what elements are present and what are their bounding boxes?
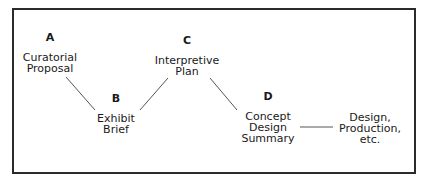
edge-b-c	[140, 78, 168, 110]
node-c-label: Interpretive Plan	[155, 55, 220, 77]
connector-lines	[0, 0, 424, 185]
node-a-letter: A	[46, 31, 55, 44]
edge-a-b	[66, 77, 95, 110]
node-design-production-label: Design, Production, etc.	[339, 112, 401, 145]
node-d-label: Concept Design Summary	[241, 111, 294, 144]
node-d-letter: D	[263, 90, 272, 103]
node-c-letter: C	[183, 34, 191, 47]
edge-c-d	[210, 78, 237, 110]
node-b-letter: B	[112, 92, 120, 105]
node-a-label: Curatorial Proposal	[23, 52, 77, 74]
node-b-label: Exhibit Brief	[97, 113, 135, 135]
